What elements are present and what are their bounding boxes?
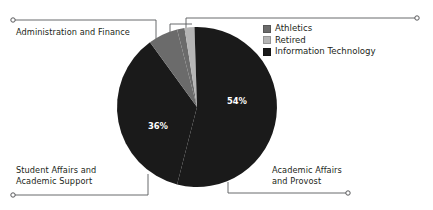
leader-endpoint-student-affairs xyxy=(11,193,15,197)
legend-swatch-icon-information-technology xyxy=(263,48,271,56)
leader-endpoint-academic-affairs xyxy=(346,191,350,195)
legend-item-retired[interactable]: Retired xyxy=(263,35,376,46)
legend-swatch-icon-retired xyxy=(263,36,271,44)
legend-label-athletics: Athletics xyxy=(275,23,312,34)
legend-swatch-icon-athletics xyxy=(263,25,271,33)
legend-label-retired: Retired xyxy=(275,35,306,46)
pie-slices xyxy=(117,27,277,187)
leader-endpoint-admin-finance xyxy=(11,18,15,22)
callout-label-admin-finance: Administration and Finance xyxy=(16,27,130,38)
slice-percent-academic-affairs: 54% xyxy=(227,96,248,106)
legend-item-information-technology[interactable]: Information Technology xyxy=(263,46,376,57)
slice-percent-student-affairs: 36% xyxy=(148,121,169,131)
leader-endpoint-top-right xyxy=(415,16,419,20)
pie-chart-figure: 54% 36% Administration and Finance Stude… xyxy=(0,0,433,210)
chart-legend: Athletics Retired Information Technology xyxy=(263,23,376,58)
callout-label-academic-affairs: Academic Affairs and Provost xyxy=(272,165,342,187)
callout-label-student-affairs: Student Affairs and Academic Support xyxy=(16,165,96,187)
legend-label-information-technology: Information Technology xyxy=(275,46,376,57)
legend-item-athletics[interactable]: Athletics xyxy=(263,23,376,34)
